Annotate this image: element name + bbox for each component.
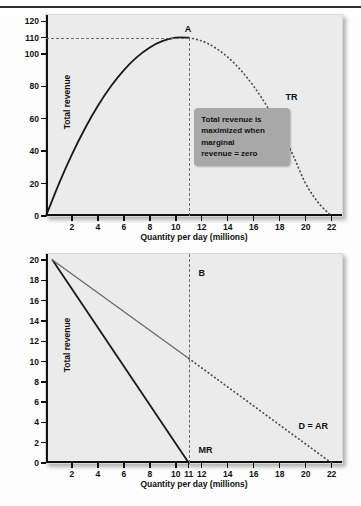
y-tick-label: 16 xyxy=(30,296,39,306)
x-tick-label: 18 xyxy=(275,469,284,479)
y-tick xyxy=(41,215,46,216)
plot-area-total-revenue: 020406080100110120246810121416182022ATRT… xyxy=(46,15,342,216)
y-tick xyxy=(41,442,46,443)
x-tick-label: 6 xyxy=(122,222,127,232)
x-tick xyxy=(331,216,332,221)
header-rule xyxy=(0,6,361,8)
x-tick xyxy=(253,463,254,468)
y-tick-label: 100 xyxy=(25,49,39,59)
x-tick-label: 22 xyxy=(327,222,336,232)
annotation-label-mr: MR xyxy=(199,445,213,455)
annotation-label-b: B xyxy=(199,268,206,278)
x-tick-label: 6 xyxy=(122,469,127,479)
x-tick-label: 10 xyxy=(171,222,180,232)
x-tick xyxy=(201,216,202,221)
chart-panel-total-revenue: 020406080100110120246810121416182022ATRT… xyxy=(45,14,343,217)
plot-area-marginal-revenue: 0246810121416182024681011121416182022BMR… xyxy=(46,254,342,463)
y-tick xyxy=(41,21,46,22)
x-tick xyxy=(279,216,280,221)
x-tick xyxy=(331,463,332,468)
x-tick xyxy=(149,463,150,468)
y-tick-label: 2 xyxy=(34,438,39,448)
y-tick xyxy=(41,150,46,151)
x-tick-label: 2 xyxy=(70,222,75,232)
x-tick xyxy=(227,216,228,221)
x-tick xyxy=(227,463,228,468)
x-tick xyxy=(175,216,176,221)
y-tick xyxy=(41,280,46,281)
chart-panel-marginal-revenue: 0246810121416182024681011121416182022BMR… xyxy=(45,253,343,464)
x-tick xyxy=(201,463,202,468)
x-tick-label: 18 xyxy=(275,222,284,232)
x-tick xyxy=(71,216,72,221)
x-tick xyxy=(305,463,306,468)
y-tick xyxy=(41,300,46,301)
y-tick-label: 18 xyxy=(30,275,39,285)
y-tick-label: 6 xyxy=(34,397,39,407)
y-tick xyxy=(41,401,46,402)
x-tick xyxy=(71,463,72,468)
x-tick-label: 11 xyxy=(184,469,193,479)
figure-page: 020406080100110120246810121416182022ATRT… xyxy=(0,0,361,506)
x-tick xyxy=(97,463,98,468)
marginal-revenue-curve-svg xyxy=(46,254,342,463)
y-tick xyxy=(41,86,46,87)
x-tick xyxy=(123,463,124,468)
y-tick xyxy=(41,462,46,463)
x-tick-label: 8 xyxy=(147,222,152,232)
x-tick-label: 16 xyxy=(249,469,258,479)
x-tick-label: 14 xyxy=(223,469,232,479)
annotation-label-tr: TR xyxy=(286,92,298,102)
x-tick-label: 12 xyxy=(197,469,206,479)
y-tick-label: 110 xyxy=(25,33,39,43)
y-tick-label: 8 xyxy=(34,377,39,387)
reference-guide xyxy=(189,254,190,463)
callout-total-revenue-maximized: Total revenue ismaximized whenmarginalre… xyxy=(194,108,290,166)
y-tick xyxy=(41,341,46,342)
series-d-ar-solid xyxy=(52,260,188,358)
y-axis-title-bottom: Total revenue xyxy=(62,318,72,373)
page-header-strip xyxy=(0,0,361,9)
annotation-label-d-ar: D = AR xyxy=(299,421,328,431)
x-tick xyxy=(97,216,98,221)
y-tick-label: 0 xyxy=(34,211,39,221)
x-tick xyxy=(123,216,124,221)
reference-guide xyxy=(46,38,189,39)
x-tick xyxy=(253,216,254,221)
callout-line: Total revenue is xyxy=(201,114,283,126)
y-tick-label: 120 xyxy=(25,16,39,26)
x-tick-label: 2 xyxy=(70,469,75,479)
x-tick-label: 8 xyxy=(147,469,152,479)
x-axis-title-top: Quantity per day (millions) xyxy=(140,232,247,242)
series-mr-solid xyxy=(52,260,188,463)
x-tick-label: 14 xyxy=(223,222,232,232)
x-tick-label: 12 xyxy=(197,222,206,232)
y-tick-label: 20 xyxy=(30,179,39,189)
y-tick-label: 20 xyxy=(30,255,39,265)
x-tick xyxy=(175,463,176,468)
x-tick-label: 16 xyxy=(249,222,258,232)
y-tick-label: 0 xyxy=(34,458,39,468)
x-tick-label: 10 xyxy=(171,469,180,479)
x-tick xyxy=(305,216,306,221)
y-tick xyxy=(41,361,46,362)
x-tick-label: 4 xyxy=(96,222,101,232)
y-tick xyxy=(41,183,46,184)
x-tick xyxy=(149,216,150,221)
y-tick-label: 12 xyxy=(30,336,39,346)
x-tick xyxy=(188,463,189,468)
y-tick-label: 14 xyxy=(30,316,39,326)
x-tick-label: 20 xyxy=(301,222,310,232)
annotation-label-a: A xyxy=(185,24,192,34)
y-tick xyxy=(41,53,46,54)
y-tick-label: 4 xyxy=(34,417,39,427)
y-tick xyxy=(41,381,46,382)
callout-line: revenue = zero xyxy=(201,148,283,160)
y-tick xyxy=(41,422,46,423)
y-tick-label: 80 xyxy=(30,81,39,91)
x-tick-label: 4 xyxy=(96,469,101,479)
y-tick xyxy=(41,320,46,321)
y-tick-label: 40 xyxy=(30,146,39,156)
y-tick xyxy=(41,118,46,119)
callout-line: marginal xyxy=(201,137,283,149)
